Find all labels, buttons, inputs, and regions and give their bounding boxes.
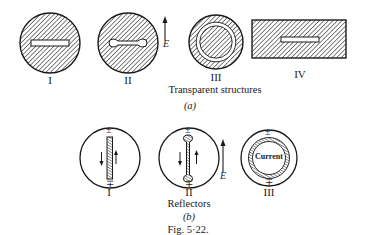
current-label: Current: [254, 152, 284, 161]
transparent-structure-iv: [252, 20, 346, 58]
charge-top-i: ±: [106, 124, 112, 135]
caption-reflectors: Reflectors: [109, 198, 269, 209]
label-a-i: I: [35, 74, 65, 86]
label-b-ii: II: [174, 186, 204, 198]
label-b-iii: III: [254, 186, 284, 198]
transparent-structure-ii: [98, 13, 158, 73]
sublabel-a: (a): [110, 100, 270, 111]
label-a-iii: III: [201, 71, 231, 83]
field-label-b: E: [220, 170, 226, 181]
label-b-i: I: [94, 186, 124, 198]
transparent-structure-i: [20, 13, 80, 73]
field-arrow-a: [163, 16, 168, 40]
charge-top-iii: ±: [265, 126, 271, 137]
charge-top-ii: ±: [185, 124, 191, 135]
caption-transparent-structures: Transparent structures: [135, 84, 295, 95]
sublabel-b: (b): [109, 211, 269, 222]
figure-number: Fig. 5·22.: [108, 224, 268, 235]
transparent-structure-iii: [189, 15, 243, 69]
label-a-iv: IV: [285, 68, 315, 80]
field-arrow-b: [221, 139, 226, 172]
field-label-a: E: [163, 38, 169, 49]
